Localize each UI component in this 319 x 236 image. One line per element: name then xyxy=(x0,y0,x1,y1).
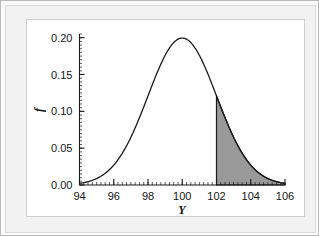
x-tick-label: 106 xyxy=(276,190,294,202)
x-tick-label: 100 xyxy=(173,190,191,202)
y-tick-label: 0.05 xyxy=(51,142,72,154)
y-axis-tick-labels: 0.000.050.100.150.20 xyxy=(51,32,72,191)
y-tick-label: 0.10 xyxy=(51,105,72,117)
x-tick-label: 102 xyxy=(207,190,225,202)
x-tick-label: 94 xyxy=(73,190,85,202)
density-curve xyxy=(80,38,286,183)
y-axis-title: f xyxy=(32,107,46,112)
plot-panel: 0.000.050.100.150.20 949698100102104106 … xyxy=(26,19,305,217)
y-tick-label: 0.20 xyxy=(51,32,72,44)
x-axis-tick-labels: 949698100102104106 xyxy=(73,190,294,202)
y-tick-label: 0.15 xyxy=(51,69,72,81)
x-tick-label: 104 xyxy=(242,190,260,202)
shaded-tail-region xyxy=(217,96,286,185)
x-tick-label: 96 xyxy=(108,190,120,202)
image-outer-border: 0.000.050.100.150.20 949698100102104106 … xyxy=(0,0,319,236)
density-chart: 0.000.050.100.150.20 949698100102104106 … xyxy=(27,20,306,218)
x-axis-title: Y xyxy=(178,203,187,217)
x-tick-label: 98 xyxy=(142,190,154,202)
y-tick-label: 0.00 xyxy=(51,179,72,191)
image-margin-band: 0.000.050.100.150.20 949698100102104106 … xyxy=(5,5,316,233)
